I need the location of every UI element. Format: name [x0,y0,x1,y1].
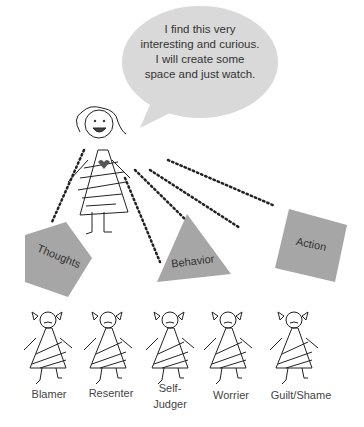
character-label: Blamer [24,388,74,400]
behavior-shape [157,214,231,282]
dotted-connectors [52,150,275,262]
bubble-text: I find this very interesting and curious… [140,22,260,82]
character-label: Worrier [206,389,256,401]
sad-figures [24,312,318,384]
character-label: Resenter [84,387,138,399]
happy-figure [68,107,130,234]
character-label: Guilt/Shame [266,389,336,401]
character-label: Self- Judger [150,380,190,412]
